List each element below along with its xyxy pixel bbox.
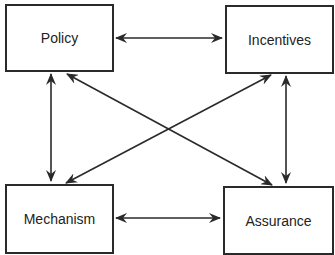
edge-incentives-mechanism [66, 75, 271, 183]
node-mechanism: Mechanism [5, 184, 114, 254]
node-incentives-label: Incentives [248, 32, 311, 48]
node-assurance-label: Assurance [245, 213, 311, 229]
node-incentives: Incentives [225, 5, 334, 74]
node-mechanism-label: Mechanism [24, 211, 96, 227]
node-assurance: Assurance [223, 186, 334, 255]
node-policy: Policy [5, 4, 114, 72]
node-policy-label: Policy [41, 30, 78, 46]
